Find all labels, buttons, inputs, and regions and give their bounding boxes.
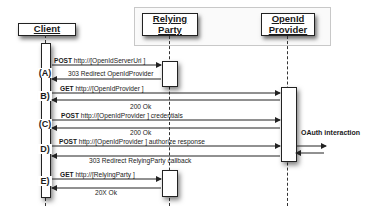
message-7-label: POST http://[OpenIdProvider ] authorize … [59, 138, 205, 146]
message-7-text: http://[OpenIdProvider ] authorize respo… [77, 138, 205, 145]
message-8-text: 303 Redirect RelyingParty callback [89, 157, 191, 164]
message-1-text: http://[OpenIdServerUri ] [72, 57, 145, 64]
message-1-label: POST http://[OpenIdServerUri ] [54, 57, 145, 65]
message-9-label: GET http://[RelyingParty ] [60, 171, 135, 179]
message-4-text: 200 Ok [130, 103, 151, 110]
message-2-text: 303 Redirect OpenIdProvider [68, 70, 153, 77]
message-5-label: POST http://[OpenIdProvider ] credential… [61, 112, 183, 120]
message-arrows [0, 0, 379, 212]
message-8-label: 303 Redirect RelyingParty callback [89, 157, 191, 165]
message-4-label: 200 Ok [130, 103, 151, 111]
message-5-verb: POST [61, 112, 79, 119]
message-3-text: http://[OpenIdProvider ] [74, 85, 144, 92]
message-7-verb: POST [59, 138, 77, 145]
message-6-text: 200 Ok [130, 129, 151, 136]
message-5-text: http://[OpenIdProvider ] credentials [79, 112, 183, 119]
message-1-verb: POST [54, 57, 72, 64]
message-10-label: 20X Ok [95, 189, 117, 197]
message-3-verb: GET [60, 85, 74, 92]
message-9-text: http://[RelyingParty ] [74, 171, 135, 178]
message-10-text: 20X Ok [95, 189, 117, 196]
oauth-interaction-note: OAuth interaction [301, 129, 360, 136]
message-9-verb: GET [60, 171, 74, 178]
message-2-label: 303 Redirect OpenIdProvider [68, 70, 153, 78]
message-6-label: 200 Ok [130, 129, 151, 137]
message-3-label: GET http://[OpenIdProvider ] [60, 85, 144, 93]
